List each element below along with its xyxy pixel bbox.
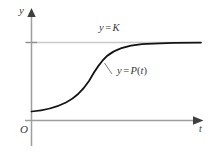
asymptote-value: K <box>113 22 120 33</box>
curve-equation-label: y=P(t) <box>117 66 147 77</box>
curve-operator: = <box>122 65 131 76</box>
curve-paren-close: ) <box>143 65 147 76</box>
curve-label-leader <box>105 63 113 74</box>
curve-var: y <box>117 65 122 76</box>
t-axis-label: t <box>199 124 202 134</box>
logistic-curve-figure: y t O y=K y=P(t) <box>0 0 213 152</box>
asymptote-operator: = <box>104 22 113 33</box>
y-axis-label: y <box>19 5 24 16</box>
y-axis-arrowhead-icon <box>27 8 35 17</box>
asymptote-equation-label: y=K <box>99 23 120 34</box>
origin-label: O <box>20 124 28 135</box>
logistic-curve-path <box>32 43 202 112</box>
asymptote-var: y <box>99 22 104 33</box>
